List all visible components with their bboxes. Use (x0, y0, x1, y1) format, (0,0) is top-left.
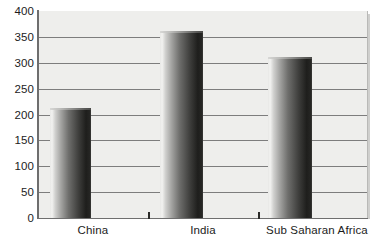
x-axis-spine (37, 218, 369, 220)
bar-china (50, 109, 91, 218)
y-tick-label: 0 (2, 213, 34, 225)
y-tick-label: 350 (2, 32, 34, 44)
bar-sub-saharan-africa (268, 58, 312, 218)
bar-chart: 400 350 300 250 200 150 100 50 0 (0, 0, 387, 249)
gridline (38, 63, 368, 64)
x-axis-label-sub-saharan-africa: Sub Saharan Africa (258, 225, 376, 237)
gridline (38, 37, 368, 38)
x-axis-tick (148, 212, 150, 219)
y-tick-label: 250 (2, 84, 34, 96)
x-axis-tick (258, 212, 260, 219)
plot-drop-shadow (368, 14, 370, 219)
y-tick-label: 300 (2, 58, 34, 70)
bar-top-cap (50, 108, 91, 110)
x-axis-label-india: India (148, 225, 258, 237)
y-tick-label: 200 (2, 110, 34, 122)
plot-area (38, 11, 368, 218)
bar-top-cap (160, 31, 203, 33)
y-axis: 400 350 300 250 200 150 100 50 0 (0, 0, 34, 249)
bar-india (160, 32, 203, 218)
x-axis-label-china: China (38, 225, 148, 237)
y-tick-label: 100 (2, 161, 34, 173)
y-tick-label: 50 (2, 187, 34, 199)
y-axis-spine (37, 10, 39, 219)
bar-top-cap (268, 57, 312, 59)
y-tick-label: 150 (2, 135, 34, 147)
y-tick-label: 400 (2, 6, 34, 18)
gridline (38, 89, 368, 90)
